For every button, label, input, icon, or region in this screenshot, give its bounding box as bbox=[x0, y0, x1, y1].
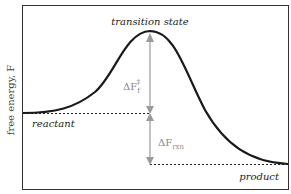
plot-frame bbox=[23, 6, 289, 190]
barrier-label: ΔFf‡ bbox=[123, 78, 141, 95]
transition-state-label: transition state bbox=[111, 16, 189, 27]
energy-diagram: free energy, F transition state reactant… bbox=[0, 0, 291, 194]
energy-curve bbox=[23, 31, 288, 164]
reaction-label: ΔFrxn bbox=[158, 137, 184, 151]
reactant-label: reactant bbox=[32, 118, 76, 129]
barrier-arrow bbox=[146, 33, 154, 114]
reaction-arrow bbox=[146, 113, 154, 165]
y-axis-label: free energy, F bbox=[5, 65, 16, 136]
product-label: product bbox=[239, 171, 280, 182]
